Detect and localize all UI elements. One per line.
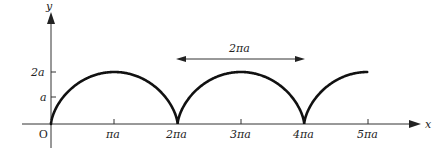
cycloid-diagram: y x O 2a a πa 2πa 3πa 4πa 5πa (0, 0, 438, 156)
x-ticks: πa 2πa 3πa 4πa 5πa (105, 119, 378, 141)
x-tick-3pi-a: 3πa (230, 128, 251, 141)
y-tick-a: a (40, 91, 47, 104)
cycloid-curve (51, 72, 367, 124)
y-tick-2a: 2a (30, 66, 45, 79)
left-arrowhead-icon (176, 56, 186, 62)
y-axis-label: y (45, 0, 53, 13)
x-tick-2pi-a: 2πa (165, 128, 187, 141)
period-annotation: 2πa (176, 42, 305, 62)
x-tick-pi-a: πa (105, 128, 120, 141)
x-axis-arrow-icon (409, 120, 421, 128)
y-ticks: 2a a (30, 66, 56, 104)
y-axis-arrow-icon (47, 12, 55, 24)
y-axis: y (45, 0, 55, 148)
x-tick-4pi-a: 4πa (292, 128, 314, 141)
origin-label: O (39, 127, 48, 141)
period-label: 2πa (228, 42, 250, 55)
right-arrowhead-icon (295, 56, 305, 62)
x-tick-5pi-a: 5πa (357, 128, 378, 141)
x-axis-label: x (425, 118, 432, 131)
